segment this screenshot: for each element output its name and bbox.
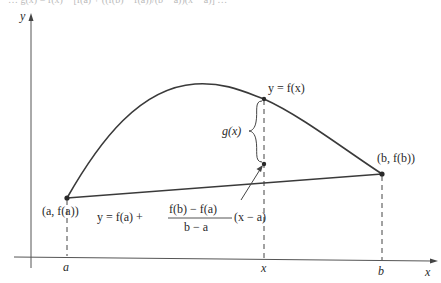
- y-axis-arrow-icon: [29, 13, 34, 21]
- secant-eq-lhs: y = f(a) +: [97, 210, 143, 224]
- function-curve: [67, 84, 382, 198]
- tick-label-x: x: [260, 261, 267, 275]
- point-a-label: (a, f(a)): [42, 204, 79, 218]
- tick-label-b: b: [378, 264, 384, 278]
- secant-eq-numerator: f(b) − f(a): [169, 202, 217, 216]
- secant-line: [67, 174, 382, 198]
- mean-value-theorem-diagram: … g(x) = f(x) − [f(a) + ((f(b) − f(a))/(…: [0, 0, 441, 283]
- tick-label-a: a: [63, 260, 69, 274]
- secant-eq-rhs: (x − a): [234, 210, 266, 224]
- x-axis: x: [14, 257, 438, 279]
- point-a: [64, 195, 69, 200]
- x-axis-label: x: [424, 265, 431, 279]
- x-axis-arrow-icon: [430, 259, 438, 264]
- gap-label: g(x): [222, 124, 241, 138]
- secant-eq-denominator: b − a: [184, 220, 209, 234]
- pointer-arrow-icon: [257, 165, 264, 172]
- brace-icon: [249, 101, 262, 162]
- curve-label: y = f(x): [268, 81, 305, 95]
- point-b-label: (b, f(b)): [377, 151, 415, 165]
- secant-equation: y = f(a) + f(b) − f(a) b − a (x − a): [97, 202, 266, 234]
- point-curve-x: [262, 97, 266, 101]
- y-axis-label: y: [19, 9, 26, 23]
- y-axis: y: [19, 9, 34, 268]
- point-b: [379, 171, 384, 176]
- cropped-top-text: … g(x) = f(x) − [f(a) + ((f(b) − f(a))/(…: [8, 0, 227, 6]
